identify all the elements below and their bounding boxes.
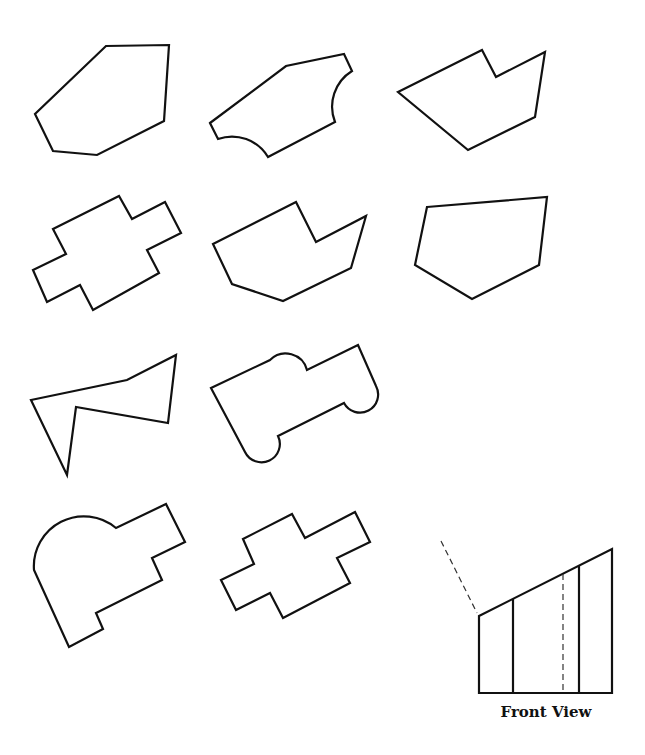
shape-6-pentagon (415, 197, 547, 299)
shape-8-rounded-notched (211, 345, 378, 462)
shape-1-hexagon (35, 45, 169, 155)
front-view-label: Front View (486, 703, 606, 721)
shape-3-notched-pentagon (398, 50, 545, 150)
diagram-canvas (0, 0, 645, 755)
shape-5-notched-heptagon (213, 202, 366, 301)
shape-10-cross (221, 512, 370, 618)
front-view-drawing (441, 541, 612, 693)
projection-line (441, 541, 477, 613)
shape-9-rounded-top-stepped (34, 504, 185, 647)
front-view-outline (479, 549, 612, 693)
shape-7-zigzag (31, 355, 176, 475)
shape-2-arc-polygon (210, 54, 352, 157)
shape-4-cross (33, 196, 181, 310)
